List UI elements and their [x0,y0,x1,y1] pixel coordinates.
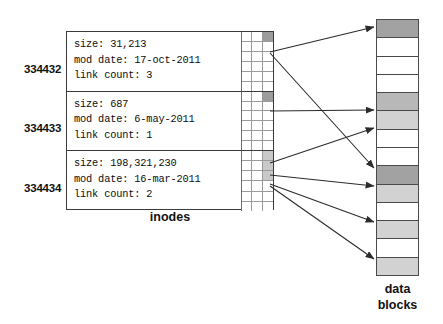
pointer-cell [252,171,261,181]
pointer-cell [252,92,261,102]
arrow-inode2-block5 [270,110,374,111]
pointer-cell [242,62,251,72]
pointer-cell [263,111,273,121]
pointer-cell [252,72,261,82]
data-block-cell [377,203,418,221]
inode-moddate-field: mod date: 6-may-2011 [74,112,241,128]
pointer-cell-filled [263,161,273,171]
pointer-cell [263,102,273,112]
data-blocks-column [376,19,419,276]
inode-linkcount-field: link count: 2 [74,187,241,203]
pointer-cell [263,181,273,191]
pointer-cell [242,141,251,150]
inode-moddate-field: mod date: 16-mar-2011 [74,172,241,188]
pointer-column [242,151,252,211]
inode-row: size: 198,321,230 mod date: 16-mar-2011 … [67,151,273,211]
pointer-column [252,92,262,151]
data-block-cell [377,239,418,257]
pointer-column [263,151,273,211]
pointer-cell [242,131,251,141]
data-block-cell [377,93,418,111]
data-block-cell [377,185,418,203]
pointer-cell [252,111,261,121]
pointer-cell [242,171,251,181]
pointer-cell [252,192,261,202]
pointer-column [252,32,262,91]
pointer-cell [252,141,261,150]
pointer-cell [242,102,251,112]
inode-size-field: size: 198,321,230 [74,156,241,172]
inode-linkcount-field: link count: 1 [74,128,241,144]
data-block-cell [377,148,418,166]
pointer-cell [252,42,261,52]
pointer-cell-filled [263,151,273,161]
pointer-cell [252,62,261,72]
arrow-inode3-block10 [270,175,374,186]
pointer-cell [242,161,251,171]
arrow-inode3-block14 [270,186,374,259]
data-block-cell [377,166,418,184]
inode-fields: size: 31,213 mod date: 17-oct-2011 link … [67,32,241,91]
pointer-cell [252,181,261,191]
pointer-cell [263,42,273,52]
arrow-inode3-block12 [270,184,374,222]
pointer-cell [252,131,261,141]
inode-fields: size: 687 mod date: 6-may-2011 link coun… [67,92,241,151]
data-block-cell [377,38,418,56]
pointer-cell [263,141,273,150]
pointer-cell-filled [263,32,273,42]
pointer-cell [263,131,273,141]
data-block-cell [377,130,418,148]
inode-row: size: 31,213 mod date: 17-oct-2011 link … [67,32,273,92]
pointer-cell [263,52,273,62]
pointer-cell [252,102,261,112]
inode-row: size: 687 mod date: 6-may-2011 link coun… [67,92,273,152]
pointer-cell [242,192,251,202]
pointer-column [242,32,252,91]
pointer-cell [242,32,251,42]
diagram-canvas: 334432 334433 334434 size: 31,213 mod da… [0,0,443,324]
data-block-cell [377,75,418,93]
pointer-cell [263,82,273,91]
pointer-cell [242,42,251,52]
pointer-cell [263,72,273,82]
pointer-cell [242,111,251,121]
block-pointer-grid [241,92,273,151]
pointer-cell [252,82,261,91]
pointer-cell [263,121,273,131]
data-caption-line-1: data [355,281,440,297]
data-block-cell [377,258,418,275]
pointer-cell [242,82,251,91]
pointer-cell [252,151,261,161]
inode-table: size: 31,213 mod date: 17-oct-2011 link … [66,31,274,210]
pointer-column [252,151,262,211]
pointer-cell [242,121,251,131]
data-caption-line-2: blocks [355,297,440,313]
inode-linkcount-field: link count: 3 [74,68,241,84]
arrow-inode1-block1 [270,27,374,52]
pointer-cell [252,161,261,171]
inode-size-field: size: 687 [74,97,241,113]
pointer-column [263,92,273,151]
data-block-cell [377,221,418,239]
pointer-column [242,92,252,151]
pointer-cell [252,121,261,131]
pointer-cell [263,192,273,202]
pointer-cell [242,92,251,102]
block-pointer-grid [241,32,273,91]
pointer-cell [242,52,251,62]
pointer-cell [252,52,261,62]
data-blocks-caption: data blocks [355,281,440,313]
pointer-cell [242,151,251,161]
pointer-cell-filled [263,92,273,102]
block-pointer-grid [241,151,273,211]
inode-fields: size: 198,321,230 mod date: 16-mar-2011 … [67,151,241,211]
data-block-cell [377,20,418,38]
inodes-caption: inodes [66,210,274,224]
pointer-cell [252,32,261,42]
pointer-cell-filled [263,171,273,181]
inode-moddate-field: mod date: 17-oct-2011 [74,53,241,69]
data-block-cell [377,57,418,75]
arrow-inode3-block6 [270,128,374,163]
data-block-cell [377,111,418,129]
